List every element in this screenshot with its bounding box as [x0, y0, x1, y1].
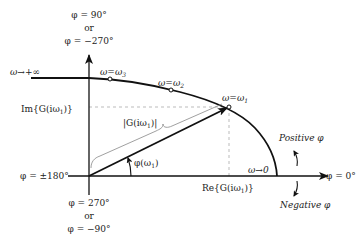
- point-omega3: [108, 77, 112, 81]
- bottom-phase-label-2: φ = −90°: [67, 224, 110, 234]
- left-phase-label: φ = ±180°: [20, 171, 69, 181]
- negative-phi-label: Negative φ: [279, 200, 331, 210]
- omega-zero-label: ω→0: [248, 165, 269, 175]
- angle-label: φ(ω1): [134, 158, 159, 169]
- omega3-label: ω=ω3: [100, 67, 126, 78]
- omega-inf-label: ω→+∞: [10, 67, 40, 77]
- nyquist-diagram: φ = 90° or φ = −270° ω→+∞ ω=ω3 ω=ω2 ω=ω1…: [0, 0, 359, 245]
- top-phase-or: or: [84, 23, 94, 33]
- negative-phi-arrow: [294, 181, 297, 196]
- im-label: Im{G(iω1)}: [21, 104, 73, 115]
- point-omega2: [169, 88, 173, 92]
- omega1-label: ω=ω1: [222, 93, 248, 104]
- omega2-label: ω=ω2: [158, 78, 184, 89]
- point-omega1: [227, 105, 231, 109]
- re-label: Re{G(iω1)}: [202, 183, 254, 194]
- positive-phi-label: Positive φ: [278, 133, 324, 143]
- positive-phi-arrow: [294, 151, 297, 166]
- angle-arc: [128, 158, 131, 176]
- bottom-phase-or: or: [84, 211, 94, 221]
- magnitude-label: |G(iω1)|: [123, 118, 157, 129]
- top-phase-label-2: φ = −270°: [65, 36, 114, 46]
- top-phase-label-1: φ = 90°: [71, 10, 107, 20]
- right-phase-label: φ = 0°: [326, 171, 356, 181]
- bottom-phase-label-1: φ = 270°: [68, 198, 109, 208]
